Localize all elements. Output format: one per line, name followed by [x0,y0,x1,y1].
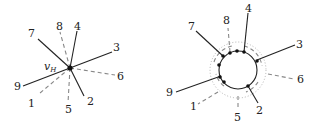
label-9: 9 [166,86,173,99]
edge-3 [70,52,112,68]
label-8: 8 [56,20,63,33]
label-5: 5 [234,111,241,124]
edge-3 [257,45,295,60]
label-4: 4 [245,2,252,15]
vertex-label: vH [44,60,57,74]
label-7: 7 [28,27,35,40]
label-1: 1 [28,97,35,110]
right-cycle-diagram: 4 3 7 8 6 9 1 5 2 [166,2,304,124]
edge-2 [70,68,84,96]
vertex-vH [67,65,72,70]
label-9: 9 [14,80,21,93]
label-8: 8 [223,14,230,27]
edge-5 [68,68,70,103]
diagram-canvas: 4 3 7 8 6 9 1 5 2 vH 4 [0,0,321,125]
edge-8 [228,28,230,52]
label-3: 3 [113,41,120,54]
label-6: 6 [117,70,124,83]
label-6: 6 [297,73,304,86]
edge-8 [60,32,70,68]
label-3: 3 [296,38,303,51]
edge-6 [268,74,294,79]
left-star-diagram: 4 3 7 8 6 9 1 5 2 vH [14,20,124,116]
label-7: 7 [188,20,195,33]
dashed-arc-b [244,46,262,66]
edge-1 [198,92,218,104]
edge-7 [38,39,70,68]
edge-4 [70,31,77,68]
edge-7 [196,31,223,56]
label-5: 5 [65,103,72,116]
label-4: 4 [74,20,81,33]
label-1: 1 [190,100,197,113]
label-2: 2 [87,95,94,108]
label-2: 2 [256,104,263,117]
edge-6 [70,68,115,75]
